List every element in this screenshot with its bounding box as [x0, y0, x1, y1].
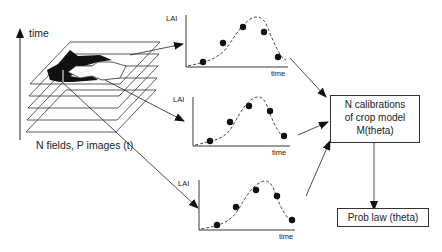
- chart-3-ylabel: LAI: [178, 179, 189, 188]
- chart-1-xlabel: time: [271, 69, 285, 78]
- stack-caption: N fields, P images (t): [36, 139, 133, 151]
- lai-chart-2: [193, 97, 290, 146]
- prob-law-label: Prob law (theta): [348, 212, 419, 223]
- chart-to-calibration-arrows: [290, 58, 330, 196]
- chart-3-xlabel: time: [279, 232, 293, 241]
- prob-law-box: Prob law (theta): [337, 208, 429, 227]
- calibration-box: N calibrations of crop model M(theta): [330, 95, 420, 143]
- field-shapes: [47, 50, 126, 82]
- chart-1-ylabel: LAI: [166, 14, 177, 23]
- chart-2-ylabel: LAI: [173, 95, 184, 104]
- lai-chart-3: [199, 180, 295, 230]
- time-axis-arrow: [16, 28, 24, 140]
- calibration-line-1: N calibrations: [331, 98, 419, 111]
- calibration-line-3: M(theta): [331, 124, 419, 137]
- lai-chart-1: [186, 15, 288, 67]
- calibration-line-2: of crop model: [331, 111, 419, 124]
- time-axis-label: time: [29, 27, 49, 39]
- chart-2-xlabel: time: [272, 148, 286, 157]
